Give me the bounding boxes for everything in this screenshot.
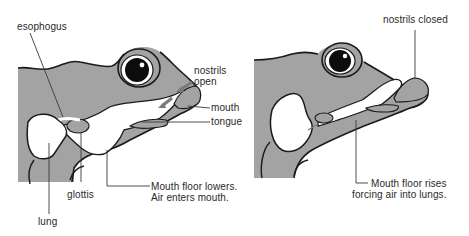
label-glottis: glottis [67,189,94,200]
label-nostrils-state: open [194,76,226,87]
label-tongue: tongue [211,116,242,127]
label-nostrils: nostrils [194,65,226,76]
right-caption: Mouth floor rises forcing air into lungs… [352,178,447,200]
label-esophagus: esophogus [17,21,67,32]
label-nostrils-closed: nostrils closed [383,14,448,25]
label-nostrils-open: nostrils open [194,65,226,87]
right-glottis [315,113,333,123]
left-glottis [67,119,89,133]
label-mouth: mouth [211,102,239,113]
left-caption-line1: Mouth floor lowers. [151,181,237,192]
left-caption-line2: Air enters mouth. [151,192,237,203]
right-eye [329,50,351,72]
right-caption-line2: forcing air into lungs. [352,189,447,200]
left-eye [125,58,149,82]
left-caption: Mouth floor lowers. Air enters mouth. [151,181,237,203]
right-frog [254,30,428,183]
label-lung: lung [38,216,57,227]
right-caption-line1: Mouth floor rises [352,178,447,189]
